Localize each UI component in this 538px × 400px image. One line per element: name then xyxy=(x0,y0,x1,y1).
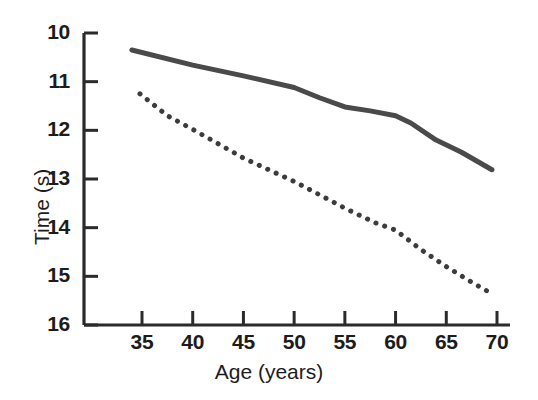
y-axis-title: Time (s) xyxy=(30,169,54,245)
x-tick-label: 35 xyxy=(122,330,162,354)
series-dotted-line xyxy=(140,94,492,294)
axis-lines xyxy=(84,33,510,325)
y-tick-label: 15 xyxy=(34,263,70,287)
x-tick-label: 40 xyxy=(173,330,213,354)
y-tick-label: 10 xyxy=(34,20,70,44)
chart-figure: 10111213141516 3540455055606570 Time (s)… xyxy=(0,0,538,400)
data-series-group xyxy=(132,50,492,294)
x-tick-label: 45 xyxy=(223,330,263,354)
x-tick-label: 60 xyxy=(376,330,416,354)
x-axis-title: Age (years) xyxy=(0,360,538,384)
series-solid-line xyxy=(132,50,492,170)
x-tick-label: 55 xyxy=(325,330,365,354)
x-tick-marks xyxy=(142,311,497,325)
x-tick-label: 65 xyxy=(426,330,466,354)
y-tick-label: 12 xyxy=(34,117,70,141)
y-tick-marks xyxy=(84,33,98,325)
y-tick-label: 16 xyxy=(34,312,70,336)
x-tick-label: 50 xyxy=(274,330,314,354)
x-tick-label: 70 xyxy=(477,330,517,354)
y-tick-label: 11 xyxy=(34,69,70,93)
